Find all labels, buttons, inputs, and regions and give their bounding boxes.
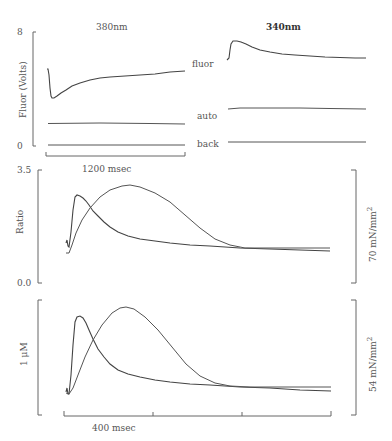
title-340nm: 340nm [266, 22, 301, 32]
ytick-3-5: 3.5 [17, 165, 32, 175]
ylabel-1uM: 1 μM [19, 342, 29, 366]
middle-panel: 3.5 0.0 Ratio 70 mN/mm2 [15, 165, 378, 288]
figure: 380nm 340nm 8 0 Fluor (Volts) 1200 msec … [0, 0, 392, 441]
title-380nm: 380nm [96, 22, 128, 32]
force-scale-bar-54 [351, 300, 356, 415]
trace-340-fluor [227, 41, 366, 60]
trace-ratio [66, 195, 330, 251]
label-fluor: fluor [192, 59, 214, 69]
force-scale-54-label: 54 mN/mm2 [366, 337, 378, 392]
ytick-top: 8 [17, 27, 23, 37]
y-axis-ratio [38, 170, 42, 283]
trace-calcium [66, 316, 331, 394]
ylabel-ratio: Ratio [15, 210, 25, 234]
time-scale-400-label: 400 msec [92, 423, 136, 433]
time-scale-bar-1200 [46, 152, 185, 156]
y-axis-calcium [38, 300, 42, 415]
time-axis-400 [64, 411, 331, 416]
ylabel-fluor-volts: Fluor (Volts) [18, 61, 28, 118]
time-scale-1200-label: 1200 msec [82, 164, 131, 174]
trace-force-1 [66, 185, 330, 253]
trace-380-fluor [47, 69, 185, 98]
force-scale-bar-70 [351, 170, 356, 283]
ytick-bottom: 0 [17, 141, 23, 151]
ytick-0-0: 0.0 [17, 278, 32, 288]
top-panel: 380nm 340nm 8 0 Fluor (Volts) 1200 msec … [17, 22, 366, 174]
force-scale-70-label: 70 mN/mm2 [366, 207, 378, 262]
bottom-panel: 1 μM 400 msec 54 mN/mm2 [19, 300, 378, 433]
trace-force-2 [66, 307, 331, 394]
label-back: back [197, 139, 219, 149]
label-auto: auto [197, 111, 217, 121]
y-axis [33, 32, 36, 146]
trace-340-auto [228, 108, 366, 109]
trace-380-auto [48, 123, 185, 124]
